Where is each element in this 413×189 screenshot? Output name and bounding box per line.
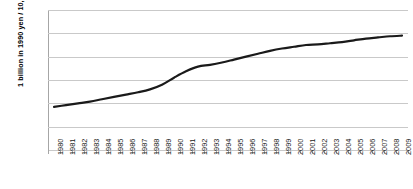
x-tick-label: 1998 (273, 139, 280, 155)
x-tick-label: 1980 (57, 139, 64, 155)
x-tick-label: 1982 (81, 139, 88, 155)
x-tick-label: 1986 (129, 139, 136, 155)
x-tick-label: 2000 (297, 139, 304, 155)
x-tick-label: 1981 (69, 139, 76, 155)
x-tick-label: 1999 (285, 139, 292, 155)
x-tick-label: 1996 (249, 139, 256, 155)
x-tick-label: 1991 (189, 139, 196, 155)
x-tick-label: 2009 (405, 139, 412, 155)
x-tick-label: 1995 (237, 139, 244, 155)
x-tick-label: 1989 (165, 139, 172, 155)
x-tick-label: 2003 (333, 139, 340, 155)
x-tick-label: 2002 (321, 139, 328, 155)
x-tick-label: 1984 (105, 139, 112, 155)
x-tick-mark (48, 150, 49, 154)
x-tick-label: 2001 (309, 139, 316, 155)
x-tick-label: 2004 (345, 139, 352, 155)
x-tick-label: 2008 (393, 139, 400, 155)
x-tick-label: 1997 (261, 139, 268, 155)
x-tick-label: 1992 (201, 139, 208, 155)
data-series-line (48, 10, 408, 150)
x-tick-label: 1994 (225, 139, 232, 155)
x-tick-label: 1987 (141, 139, 148, 155)
x-tick-label: 1985 (117, 139, 124, 155)
series-path (54, 36, 402, 107)
x-tick-label: 2006 (369, 139, 376, 155)
x-tick-label: 1990 (177, 139, 184, 155)
x-tick-label: 2005 (357, 139, 364, 155)
x-tick-label: 2007 (381, 139, 388, 155)
x-tick-label: 1993 (213, 139, 220, 155)
x-tick-label: 1983 (93, 139, 100, 155)
x-tick-label: 1988 (153, 139, 160, 155)
